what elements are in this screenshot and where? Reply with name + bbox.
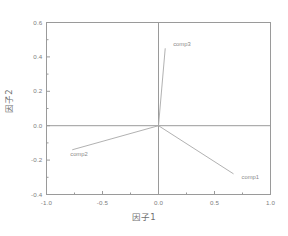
y-tick-label: 0.0 <box>33 122 42 129</box>
x-axis-title: 因子1 <box>0 210 288 222</box>
point-label-comp1: comp1 <box>242 174 259 180</box>
point-label-comp2: comp2 <box>70 151 87 157</box>
y-tick-label: 0.4 <box>33 53 42 60</box>
x-tick-label: 1.0 <box>256 199 286 206</box>
x-tick-label: 0.5 <box>200 199 230 206</box>
point-label-comp3: comp3 <box>173 41 190 47</box>
y-tick-label: 0.2 <box>33 87 42 94</box>
loading-vectors <box>72 48 233 174</box>
y-tick-label: -0.2 <box>31 156 42 163</box>
y-axis-title: 因子2 <box>2 76 14 126</box>
x-tick-label: -0.5 <box>88 199 118 206</box>
x-tick-label: -1.0 <box>32 199 62 206</box>
y-tick-label: -0.4 <box>31 191 42 198</box>
chart-figure: 0.60.40.20.0-0.2-0.4 -1.0-0.50.00.51.0 c… <box>0 0 288 236</box>
zero-axis-lines <box>47 23 271 195</box>
y-tick-label: 0.6 <box>33 19 42 26</box>
x-tick-label: 0.0 <box>144 199 174 206</box>
